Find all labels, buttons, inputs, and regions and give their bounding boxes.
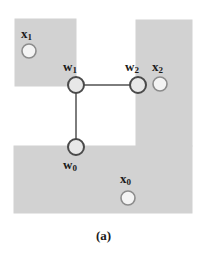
nodes-group: [68, 77, 146, 155]
node-label-w0-subscript: 0: [72, 163, 77, 173]
point-label-x2: x2: [152, 60, 163, 73]
node-label-w2-text: w: [125, 59, 134, 74]
bottom-shaded-region: [14, 146, 192, 213]
node-w1: [68, 77, 84, 93]
point-label-x1: x1: [21, 27, 32, 40]
node-label-w0-text: w: [63, 157, 72, 172]
node-label-w1-subscript: 1: [72, 65, 77, 75]
node-label-w1: w1: [63, 60, 77, 73]
point-label-x0-text: x: [120, 171, 127, 186]
point-label-x1-subscript: 1: [28, 32, 33, 42]
point-label-x1-text: x: [21, 26, 28, 41]
point-label-x0-subscript: 0: [127, 177, 132, 187]
node-w2: [130, 77, 146, 93]
node-label-w2-subscript: 2: [134, 65, 139, 75]
node-label-w2: w2: [125, 60, 139, 73]
point-label-x2-subscript: 2: [159, 65, 164, 75]
node-w0: [68, 139, 84, 155]
node-label-w1-text: w: [63, 59, 72, 74]
figure-container: w1 w2 w0 x1 x2 x0 (a): [0, 0, 207, 260]
edges-group: [76, 85, 138, 147]
point-x0: [121, 191, 135, 205]
point-x1: [22, 44, 36, 58]
point-label-x0: x0: [120, 172, 131, 185]
point-label-x2-text: x: [152, 59, 159, 74]
figure-caption: (a): [0, 228, 207, 244]
shaded-regions-group: [14, 19, 192, 213]
node-label-w0: w0: [63, 158, 77, 171]
point-x2: [153, 77, 167, 91]
